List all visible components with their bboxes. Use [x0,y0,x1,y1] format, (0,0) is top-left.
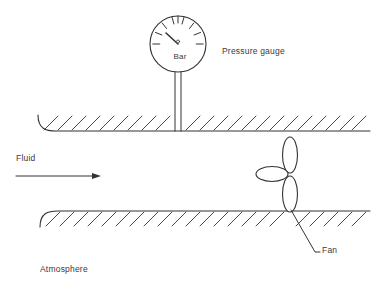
gauge-stem [175,70,181,131]
fan-blade-down [283,176,298,212]
label-atmosphere: Atmosphere [40,264,88,274]
schematic-drawing [0,0,375,293]
gauge-unit-label: Bar [160,52,200,61]
lower-duct-wall [40,211,370,227]
label-pressure-gauge: Pressure gauge [222,46,285,56]
gauge-hub [177,40,180,43]
flow-arrow-head [92,173,101,179]
diagram-canvas: Pressure gauge Fluid Fan Atmosphere Bar [0,0,375,293]
pressure-gauge [150,16,206,131]
label-fan: Fan [322,245,337,255]
fan [256,137,298,212]
upper-duct-wall [38,115,370,131]
fan-blade-left [256,167,288,182]
upper-wall-hatching [44,116,366,130]
lower-wall-hatching [46,212,366,226]
fan-blade-up [283,137,298,173]
flow-arrow [16,173,101,179]
label-fluid: Fluid [16,153,35,163]
